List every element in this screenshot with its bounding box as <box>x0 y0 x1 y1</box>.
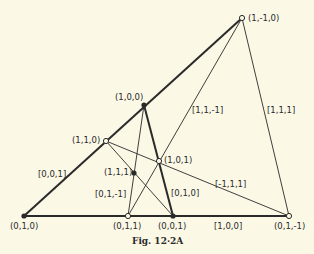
label-point-0-1-0: (0,1,0) <box>10 221 38 231</box>
point-0-1-1 <box>125 213 130 218</box>
point-0-0-1 <box>170 213 175 218</box>
point-1-0-0 <box>141 102 146 107</box>
label-point-1-m1-0: (1,-1,0) <box>248 13 279 23</box>
point-0-1-m1 <box>286 213 291 218</box>
line-0-1-m1 <box>128 105 144 216</box>
point-1-m1-0 <box>239 15 244 20</box>
label-line-0-1-m1: [0,1,-1] <box>95 189 126 199</box>
label-point-1-0-1: (1,0,1) <box>164 155 192 165</box>
figure-caption: Fig. 12·2A <box>132 236 184 246</box>
label-line-1-0-0: [1,0,0] <box>214 221 242 231</box>
label-point-1-0-0: (1,0,0) <box>115 92 143 102</box>
label-line-0-1-0: [0,1,0] <box>171 188 199 198</box>
label-point-1-1-1: (1,1,1) <box>104 167 132 177</box>
label-point-0-1-m1: (0,1,-1) <box>274 221 305 231</box>
label-line-1-1-1: [1,1,1] <box>267 105 295 115</box>
line-1-1-1 <box>242 18 289 216</box>
point-0-1-0 <box>21 213 26 218</box>
label-point-0-0-1: (0,0,1) <box>158 221 186 231</box>
projective-diagram: (1,-1,0) (1,0,0) (1,1,0) (1,0,1) (1,1,1)… <box>0 0 314 254</box>
line-0-0-1 <box>24 18 242 216</box>
label-point-1-1-0: (1,1,0) <box>72 135 100 145</box>
label-line-1-1-m1: [1,1,-1] <box>192 105 223 115</box>
label-point-0-1-1: (0,1,1) <box>113 221 141 231</box>
label-line-m1-1-1: [-1,1,1] <box>215 179 246 189</box>
point-1-0-1 <box>156 158 161 163</box>
point-1-1-0 <box>103 138 108 143</box>
label-line-0-0-1: [0,0,1] <box>38 169 66 179</box>
